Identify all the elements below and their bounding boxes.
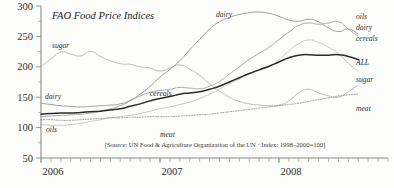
inline-label-dairy-1: dairy [45, 92, 62, 101]
inline-label-dairy-4: dairy [216, 10, 233, 19]
y-tick-label-150: 150 [17, 92, 33, 103]
series-line-ALL [41, 55, 358, 115]
x-axis-ticks [41, 158, 388, 163]
legend-label-ALL: ALL [355, 58, 369, 67]
chart-canvas: FAO Food Price Indices 50100150200250300… [0, 0, 394, 188]
legend-label-dairy: dairy [356, 23, 373, 32]
legend-label-cereals: cereals [356, 34, 378, 43]
y-tick-label-250: 250 [17, 31, 33, 42]
y-tick-label-50: 50 [23, 153, 34, 164]
y-axis-tick-labels: 50100150200250300 [17, 1, 33, 164]
legend-label-meat: meat [356, 104, 372, 113]
series-line-dairy [41, 12, 358, 107]
source-caption: [Source: UN Food & Agriculture Organizat… [105, 141, 326, 149]
inline-label-oils-2: oils [46, 125, 57, 134]
legend-label-oils: oils [356, 12, 367, 21]
series-line-sugar [41, 52, 358, 106]
inline-series-labels: sugardairyoilscerealsdairymeat [45, 10, 233, 139]
fao-food-price-chart: FAO Food Price Indices 50100150200250300… [0, 0, 394, 188]
x-tick-label-2007: 2007 [161, 166, 182, 177]
y-tick-label-200: 200 [17, 61, 33, 72]
y-axis-ticks [36, 6, 41, 158]
inline-label-cereals-3: cereals [150, 89, 172, 98]
series-line-cereals [41, 21, 358, 116]
y-tick-label-300: 300 [17, 1, 33, 12]
chart-title-group: FAO Food Price Indices [51, 10, 154, 21]
y-tick-label-100: 100 [17, 122, 33, 133]
x-axis-tick-labels: 200620072008 [43, 166, 302, 177]
legend: oilsdairycerealsALLsugarmeat [355, 12, 378, 113]
x-tick-label-2006: 2006 [43, 166, 64, 177]
data-series-group [41, 12, 358, 125]
page-title: FAO Food Price Indices [51, 10, 154, 21]
inline-label-sugar-0: sugar [52, 41, 69, 50]
inline-label-meat-5: meat [160, 130, 176, 139]
x-tick-label-2008: 2008 [280, 166, 301, 177]
legend-label-sugar: sugar [356, 75, 373, 84]
